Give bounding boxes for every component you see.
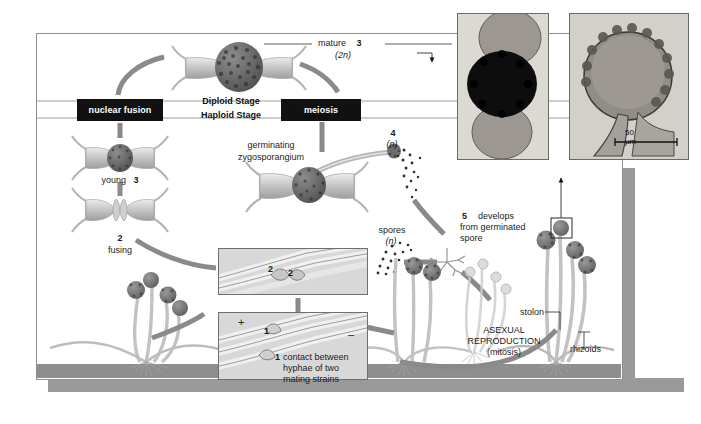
scale-bar-label: 50 µm [625,128,636,146]
mature-label: mature [318,38,346,48]
mature-step-number: 3 [357,38,362,48]
contact-caption-2: hyphae of two [283,363,339,374]
gametangia-number-left: 2 [268,264,273,275]
zygosporangium-micrograph [457,13,549,160]
step-five-text-3: spore [460,233,483,244]
mycelium-left-illustration [50,272,222,376]
gametangia-number-right: 2 [288,268,293,279]
step-four-ploidy: (n) [378,139,406,150]
nuclear-fusion-box: nuclear fusion [77,99,163,121]
step-five-text-2: from germinated [460,222,526,233]
nuclear-fusion-label: nuclear fusion [89,105,152,115]
contact-caption-3: mating strains [283,374,339,385]
arrow-to-mature [118,57,164,95]
fusing-label: fusing [96,245,144,256]
spores-label: spores [368,225,416,236]
spore-cloud-four [397,149,421,199]
contact-number-upper: 1 [264,326,269,337]
germinating-label: germinating [226,140,316,151]
meiosis-box: meiosis [281,99,361,121]
mature-ploidy: (2n) [318,50,368,61]
rhizoids-label: rhizoids [570,344,601,355]
diploid-stage-label: Diploid Stage [183,96,279,107]
haploid-stage-label: Haploid Stage [183,110,279,121]
meiosis-label: meiosis [304,105,338,115]
plus-strain-sign: + [238,317,244,328]
sporangium-micrograph: 50 µm [569,13,689,160]
spores-ploidy: (n) [374,236,408,247]
asexual-line-3: (mitosis) [458,347,550,358]
mature-label-group: mature 3 [318,38,382,49]
step-five-text-1: develops [478,211,514,222]
life-cycle-diagram: 50 µm nuclear fusion meiosis Diploid Sta… [0,0,701,424]
contact-caption-1: contact between [283,352,349,363]
young-zygospore-illustration [72,136,168,180]
asexual-line-2: REPRODUCTION [444,336,564,347]
young-label: young [101,175,126,185]
zygosporangium-label: zygosporangium [213,152,329,163]
contact-number-lower: 1 [275,352,280,363]
fusing-step-number: 2 [96,233,144,244]
young-label-group: young 3 [84,175,156,186]
young-step-number: 3 [134,175,139,185]
stolon-label: stolon [500,307,544,318]
mature-zygospore-illustration [172,42,312,92]
minus-strain-sign: – [348,329,354,340]
arrow-inset-to-fusing [136,240,216,268]
step-five-number: 5 [462,211,467,222]
asexual-line-1: ASEXUAL [452,325,556,336]
step-four-number: 4 [380,128,406,139]
arrow-asexual-left-upper [366,327,394,333]
arrow-four-to-five [414,200,444,234]
